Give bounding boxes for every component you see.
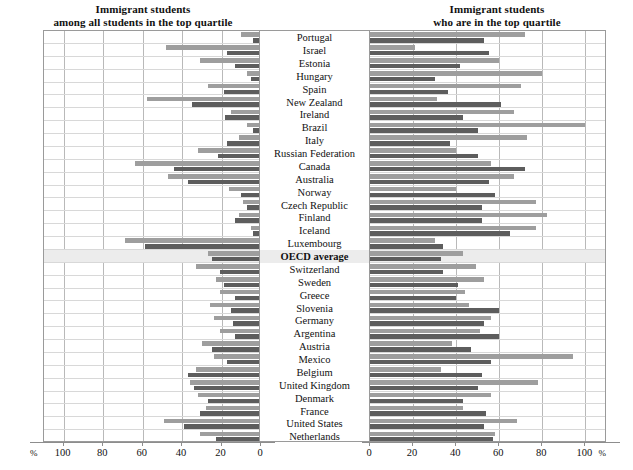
bar-first-generation	[190, 380, 259, 385]
country-label-denmark: Denmark	[260, 392, 369, 405]
country-label-iceland: Iceland	[260, 224, 369, 237]
bar-first-generation	[370, 354, 573, 359]
country-label-czech-republic: Czech Republic	[260, 198, 369, 211]
bar-first-generation	[370, 393, 491, 398]
axis-tick-label: 0	[366, 447, 371, 458]
axis-tick-label: 20	[407, 447, 418, 458]
country-label-france: France	[260, 404, 369, 417]
bar-first-generation	[241, 32, 259, 37]
axis-tick-label: 20	[215, 447, 226, 458]
bar-first-generation	[200, 432, 259, 437]
bar-first-generation	[370, 148, 456, 153]
country-label-norway: Norway	[260, 186, 369, 199]
bar-first-generation	[370, 316, 491, 321]
bar-first-generation	[370, 213, 547, 218]
country-label-germany: Germany	[260, 314, 369, 327]
left-panel-title-line1: Immigrant students	[18, 3, 268, 16]
country-label-australia: Australia	[260, 173, 369, 186]
country-label-united-kingdom: United Kingdom	[260, 379, 369, 392]
country-label-slovenia: Slovenia	[260, 301, 369, 314]
country-label-hungary: Hungary	[260, 70, 369, 83]
bar-first-generation	[370, 238, 435, 243]
country-label-luxembourg: Luxembourg	[260, 237, 369, 250]
bar-first-generation	[251, 226, 259, 231]
bar-first-generation	[370, 226, 536, 231]
bar-first-generation	[370, 406, 463, 411]
bar-first-generation	[370, 45, 415, 50]
country-label-austria: Austria	[260, 340, 369, 353]
axis-tick-label: 40	[450, 447, 461, 458]
bar-first-generation	[370, 71, 542, 76]
bar-first-generation	[370, 110, 514, 115]
country-label-ireland: Ireland	[260, 108, 369, 121]
bar-first-generation	[135, 161, 259, 166]
country-label-israel: Israel	[260, 44, 369, 57]
axis-tick	[541, 442, 542, 446]
country-label-column: PortugalIsraelEstoniaHungarySpainNew Zea…	[260, 30, 369, 442]
bar-first-generation	[147, 97, 259, 102]
bar-first-generation	[370, 432, 495, 437]
bar-first-generation	[220, 329, 259, 334]
bar-first-generation	[370, 367, 441, 372]
bar-first-generation	[370, 277, 484, 282]
country-label-switzerland: Switzerland	[260, 263, 369, 276]
bar-first-generation	[370, 264, 476, 269]
country-label-spain: Spain	[260, 83, 369, 96]
bar-first-generation	[214, 316, 259, 321]
country-label-netherlands: Netherlands	[260, 430, 369, 443]
bar-first-generation	[210, 303, 259, 308]
left-plot-area	[43, 30, 260, 442]
bar-first-generation	[370, 187, 456, 192]
bar-first-generation	[370, 290, 465, 295]
bar-row	[370, 430, 605, 442]
bar-first-generation	[370, 251, 463, 256]
bar-first-generation	[247, 71, 259, 76]
bar-first-generation	[229, 187, 259, 192]
country-label-greece: Greece	[260, 289, 369, 302]
axis-tick	[498, 442, 499, 446]
left-panel-title-line2: among all students in the top quartile	[18, 16, 268, 29]
bar-first-generation	[370, 303, 469, 308]
bar-first-generation	[370, 32, 525, 37]
bar-first-generation	[196, 367, 259, 372]
bar-first-generation	[200, 58, 259, 63]
right-plot-area	[369, 30, 606, 442]
bar-first-generation	[243, 200, 259, 205]
bar-first-generation	[370, 200, 536, 205]
country-label-brazil: Brazil	[260, 121, 369, 134]
bar-first-generation	[202, 341, 259, 346]
bar-first-generation	[208, 84, 259, 89]
bar-first-generation	[216, 277, 259, 282]
left-panel-title: Immigrant students among all students in…	[18, 3, 268, 29]
bar-first-generation	[247, 123, 259, 128]
axis-tick-label: 0	[257, 447, 262, 458]
bar-first-generation	[198, 148, 259, 153]
bar-first-generation	[231, 110, 259, 115]
country-label-canada: Canada	[260, 160, 369, 173]
right-panel-title-line2: who are in the top quartile	[372, 16, 622, 29]
bar-first-generation	[239, 135, 259, 140]
axis-tick-label: 100	[55, 447, 71, 458]
country-label-belgium: Belgium	[260, 366, 369, 379]
left-axis-unit: %	[30, 448, 38, 458]
bar-first-generation	[125, 238, 259, 243]
bar-first-generation	[370, 380, 538, 385]
country-label-finland: Finland	[260, 211, 369, 224]
bar-first-generation	[370, 174, 514, 179]
axis-tick-label: 60	[136, 447, 147, 458]
axis-tick-label: 100	[577, 447, 593, 458]
country-label-argentina: Argentina	[260, 327, 369, 340]
country-label-sweden: Sweden	[260, 276, 369, 289]
bar-first-generation	[370, 84, 521, 89]
bar-first-generation	[166, 45, 259, 50]
bar-first-generation	[370, 341, 452, 346]
country-label-portugal: Portugal	[260, 31, 369, 44]
right-panel-title-line1: Immigrant students	[372, 3, 622, 16]
country-label-russian-federation: Russian Federation	[260, 147, 369, 160]
chart-root: Immigrant students among all students in…	[0, 0, 633, 470]
left-axis-line	[30, 442, 275, 443]
bar-first-generation	[220, 290, 259, 295]
bar-first-generation	[164, 419, 259, 424]
bar-first-generation	[370, 135, 527, 140]
axis-tick	[412, 442, 413, 446]
